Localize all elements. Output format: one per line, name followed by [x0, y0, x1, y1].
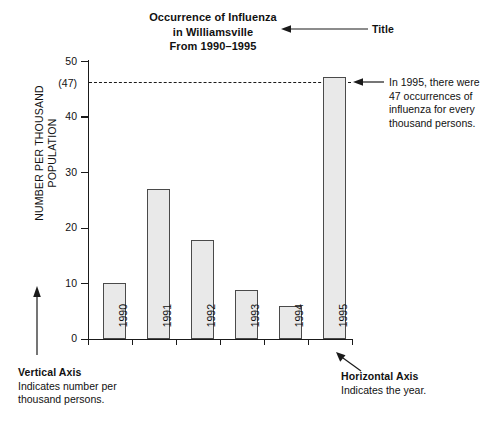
x-axis-label-1993: 1993 — [250, 304, 261, 348]
x-tick-6 — [352, 339, 353, 345]
x-axis-label-1992: 1992 — [206, 304, 217, 348]
x-tick-0 — [88, 339, 89, 345]
y-axis-title-line-2: POPULATION — [46, 73, 59, 233]
vertical-axis-caption-line-2: thousand persons. — [18, 393, 158, 407]
bar-annotation-line-2: 47 occurrences of — [389, 90, 485, 104]
bar-annotation-line-3: influenza for every — [389, 103, 485, 117]
vertical-axis-caption: Vertical Axis Indicates number per thous… — [18, 366, 158, 407]
vertical-axis-caption-heading: Vertical Axis — [18, 366, 158, 380]
y-axis-title-line-1: NUMBER PER THOUSAND — [33, 73, 46, 233]
vertical-axis-caption-line-1: Indicates number per — [18, 380, 158, 394]
y-tick-label-10: 10 — [47, 278, 77, 289]
horizontal-axis-caption-heading: Horizontal Axis — [341, 370, 483, 384]
horizontal-callout-arrow-icon — [336, 352, 362, 372]
horizontal-axis-caption-line-1: Indicates the year. — [341, 384, 483, 398]
y-tick-label-50: 50 — [47, 56, 77, 67]
bar-annotation-text: In 1995, there were 47 occurrences of in… — [389, 76, 485, 130]
y-tick-10 — [81, 283, 89, 284]
y-axis-line — [88, 60, 89, 340]
x-axis-label-1994: 1994 — [294, 304, 305, 348]
x-axis-label-1995: 1995 — [338, 304, 349, 348]
chart-title-line-1: Occurrence of Influenza — [118, 10, 308, 25]
y-tick-40 — [81, 116, 89, 117]
title-callout-arrow-icon — [281, 22, 369, 36]
bar-annotation-line-4: thousand persons. — [389, 117, 485, 131]
bar-callout-arrow-icon — [353, 75, 385, 89]
chart-title-line-2: in Williamsville — [118, 25, 308, 40]
horizontal-axis-caption: Horizontal Axis Indicates the year. — [341, 370, 483, 397]
x-tick-3 — [220, 339, 221, 345]
y-tick-30 — [81, 172, 89, 173]
chart-title-line-3: From 1990–1995 — [118, 39, 308, 54]
reference-dashed-line — [89, 82, 351, 83]
chart-title: Occurrence of Influenza in Williamsville… — [118, 10, 308, 54]
y-tick-20 — [81, 228, 89, 229]
x-tick-1 — [132, 339, 133, 345]
bar-1995[interactable] — [323, 77, 346, 338]
x-tick-5 — [308, 339, 309, 345]
x-tick-2 — [176, 339, 177, 345]
x-tick-4 — [264, 339, 265, 345]
y-tick-50 — [81, 61, 89, 62]
bar-annotation-line-1: In 1995, there were — [389, 76, 485, 90]
title-callout-label: Title — [372, 23, 394, 35]
y-tick-label-0: 0 — [47, 333, 77, 344]
x-axis-label-1990: 1990 — [118, 304, 129, 348]
y-axis-title: NUMBER PER THOUSAND POPULATION — [33, 73, 59, 233]
y-axis-up-arrow-icon — [30, 286, 44, 356]
x-axis-label-1991: 1991 — [162, 304, 173, 348]
